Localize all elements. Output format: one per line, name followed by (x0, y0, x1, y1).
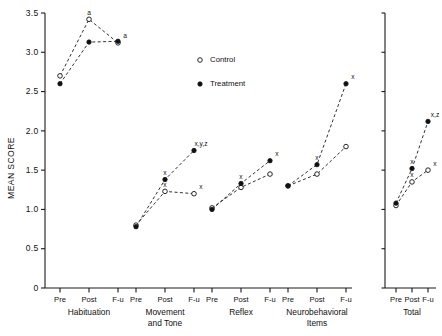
data-point-treatment (410, 166, 414, 170)
y-axis-title: MEAN SCORE (6, 137, 16, 199)
data-point-treatment (344, 82, 348, 86)
data-point-annotation: x (410, 158, 414, 165)
data-point-control (410, 180, 415, 185)
legend-label-treatment: Treatment (210, 79, 246, 88)
series-line-control (60, 19, 118, 76)
data-point-treatment (426, 119, 430, 123)
data-point-annotation: x (275, 150, 279, 157)
series-line-treatment (288, 84, 346, 186)
group-label: Movement (145, 307, 185, 317)
data-point-treatment (268, 159, 272, 163)
data-point-treatment (394, 201, 398, 205)
data-point-control (315, 172, 320, 177)
group-label: Neurobehavioral (286, 307, 348, 317)
panel-reflex: PrePostF-uReflexxx (206, 150, 279, 317)
data-point-annotation: x (351, 73, 355, 80)
data-point-annotation: x,y,z (194, 140, 207, 148)
x-axis-tick-label: Post (157, 295, 173, 304)
chart-figure: 00.51.01.52.02.53.03.5MEAN SCOREPrePostF… (0, 0, 442, 336)
data-point-annotation: a (87, 9, 91, 16)
data-point-treatment (286, 184, 290, 188)
data-point-annotation: a (123, 32, 127, 39)
data-point-treatment (239, 181, 243, 185)
y-axis-tick-label: 3.5 (26, 8, 39, 18)
panel-neurobehavioral-items: PrePostF-uNeurobehavioralItemsxx (282, 73, 355, 328)
data-point-annotation: x,z (431, 111, 439, 118)
x-axis-tick-label: F-u (264, 295, 275, 304)
x-axis-tick-label: F-u (340, 295, 351, 304)
data-point-annotation: x (199, 183, 203, 190)
legend-marker-treatment (198, 82, 202, 86)
group-label: Reflex (229, 307, 254, 317)
y-axis-tick-label: 3.0 (26, 47, 39, 57)
data-point-annotation: x (315, 154, 319, 161)
y-axis-tick-label: 1.0 (26, 204, 39, 214)
data-point-control (87, 17, 92, 22)
panel-habituation: PrePostF-uHabituationaa (54, 9, 127, 317)
chart-legend: ControlTreatment (198, 55, 246, 88)
y-axis-tick-label: 2.0 (26, 126, 39, 136)
y-axis-tick-label: 0 (33, 283, 38, 293)
data-point-treatment (163, 177, 167, 181)
chart-canvas: 00.51.01.52.02.53.03.5MEAN SCOREPrePostF… (0, 0, 442, 336)
legend-marker-control (198, 58, 203, 63)
data-point-treatment (192, 148, 196, 152)
series-line-treatment (60, 41, 118, 83)
data-point-control (426, 168, 431, 173)
x-axis-tick-label: Post (404, 295, 420, 304)
data-point-control (268, 172, 273, 177)
y-axis-tick-label: 0.5 (26, 243, 39, 253)
series-line-control (136, 191, 194, 225)
x-axis-tick-label: Pre (282, 295, 294, 304)
x-axis-tick-label: Pre (54, 295, 66, 304)
data-point-control (163, 189, 168, 194)
x-axis-tick-label: F-u (422, 295, 433, 304)
group-label: Items (307, 318, 327, 328)
data-point-treatment (210, 207, 214, 211)
y-axis-tick-label: 1.5 (26, 165, 39, 175)
data-point-annotation: x (163, 169, 167, 176)
data-point-annotation: x (433, 160, 437, 167)
legend-label-control: Control (210, 55, 235, 64)
group-label: and Tone (148, 318, 183, 328)
x-axis-tick-label: Pre (390, 295, 402, 304)
data-point-control (58, 74, 63, 79)
data-point-annotation: x (410, 171, 414, 178)
x-axis-tick-label: Post (81, 295, 97, 304)
data-point-treatment (315, 162, 319, 166)
x-axis-tick-label: Post (233, 295, 249, 304)
y-axis-tick-label: 2.5 (26, 86, 39, 96)
data-point-treatment (134, 225, 138, 229)
data-point-treatment (116, 39, 120, 43)
panel-movement-and-tone: PrePostF-uMovementand Tonexxxx,y,z (130, 140, 207, 328)
group-label: Total (403, 307, 421, 317)
group-label: Habituation (68, 307, 111, 317)
x-axis-tick-label: Pre (206, 295, 218, 304)
x-axis-tick-label: Pre (130, 295, 142, 304)
data-point-annotation: x (239, 173, 243, 180)
data-point-treatment (58, 82, 62, 86)
data-point-treatment (87, 40, 91, 44)
x-axis-tick-label: F-u (188, 295, 199, 304)
data-point-control (344, 144, 349, 149)
x-axis-tick-label: Post (309, 295, 325, 304)
panel-total: PrePostF-uTotalxxxx,z (390, 111, 439, 317)
data-point-control (192, 191, 197, 196)
x-axis-tick-label: F-u (112, 295, 123, 304)
